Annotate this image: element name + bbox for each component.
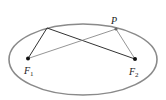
segment-f1-p xyxy=(28,29,116,59)
focus-f2-dot xyxy=(133,57,137,61)
point-p-label: P xyxy=(110,15,117,26)
segment-f1-q xyxy=(28,28,47,59)
segment-q-f2 xyxy=(47,28,135,59)
focus-f1-label: F1 xyxy=(23,65,34,78)
focus-f1-dot xyxy=(26,57,30,61)
ellipse-foci-diagram: P F1 F2 xyxy=(0,0,166,100)
focus-f2-label: F2 xyxy=(128,66,139,79)
point-p-dot xyxy=(114,27,117,30)
